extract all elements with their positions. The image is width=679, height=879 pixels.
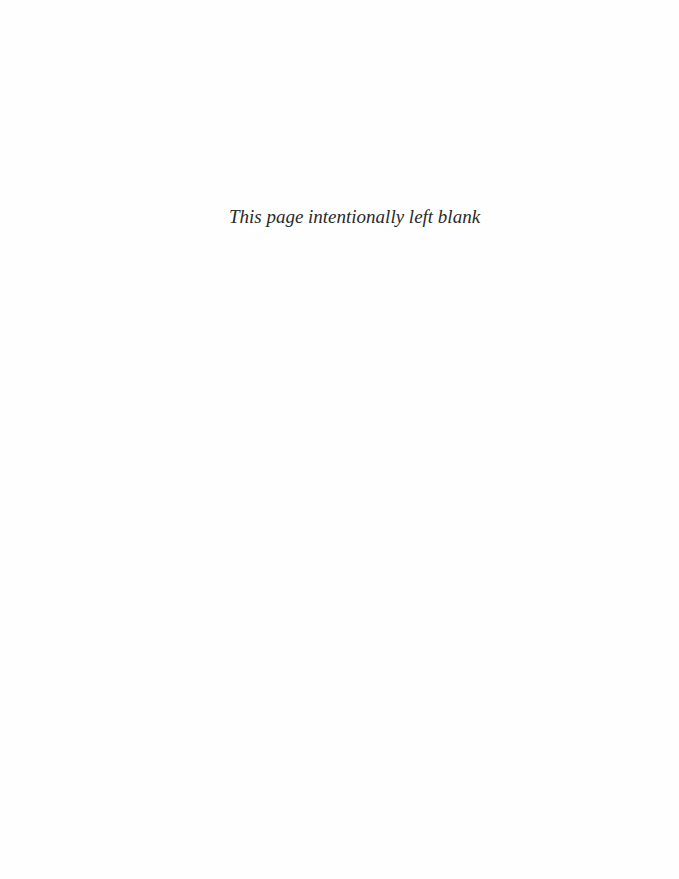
document-page: This page intentionally left blank (0, 0, 679, 879)
blank-page-notice: This page intentionally left blank (0, 206, 679, 228)
